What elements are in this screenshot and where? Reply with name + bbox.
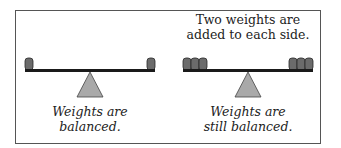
caption-line: Weights are bbox=[178, 104, 318, 119]
left-bottom-caption: Weights are balanced. bbox=[20, 104, 160, 134]
caption-line: Weights are bbox=[20, 104, 160, 119]
right-bottom-caption: Weights are still balanced. bbox=[178, 104, 318, 134]
right-weights-right-end bbox=[289, 58, 313, 70]
right-weights-left-end bbox=[183, 58, 207, 70]
caption-line: still balanced. bbox=[178, 119, 318, 134]
left-fulcrum bbox=[77, 72, 103, 97]
right-fulcrum bbox=[235, 72, 261, 97]
left-balance-scale bbox=[25, 58, 155, 97]
caption-line: added to each side. bbox=[178, 27, 318, 42]
left-weight-right-end bbox=[147, 58, 155, 70]
right-top-caption: Two weights are added to each side. bbox=[178, 12, 318, 42]
caption-line: balanced. bbox=[20, 119, 160, 134]
right-balance-scale bbox=[183, 58, 313, 97]
left-weight-left-end bbox=[25, 58, 33, 70]
caption-line: Two weights are bbox=[178, 12, 318, 27]
